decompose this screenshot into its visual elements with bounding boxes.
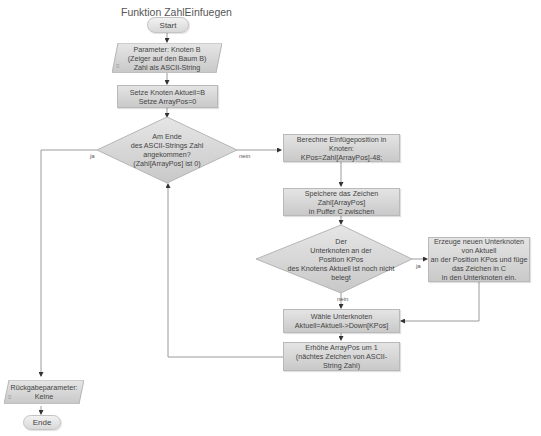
decision-end-of-string-text: Am Ende des ASCII-Strings Zahl angekomme… (107, 132, 227, 168)
select-child-text: Wähle Unterknoten Aktuell=Aktuell->Down[… (295, 312, 388, 330)
increment-text: Erhöhe ArrayPos um 1 (nächtes Zeichen vo… (296, 343, 388, 370)
input-parameters-text: Parameter: Knoten B (Zeiger auf den Baum… (128, 45, 207, 72)
io-marker-icon: ≡ (116, 62, 120, 71)
calc-position-text: Berechne Einfügeposition in Knoten: KPos… (297, 135, 387, 162)
edge-label-free-no: nein (337, 296, 348, 302)
create-child-text: Erzeuge neuen Unterknoten von Aktuell an… (430, 237, 527, 282)
select-child-node: Wähle Unterknoten Aktuell=Aktuell->Down[… (283, 309, 400, 333)
store-char-node: Speichere das Zeichen Zahl[ArrayPos] in … (283, 188, 400, 216)
edge-label-end-no: nein (239, 153, 250, 159)
init-process-node: Setze Knoten Aktuell=B Setze ArrayPos=0 (117, 85, 218, 108)
store-char-text: Speichere das Zeichen Zahl[ArrayPos] in … (305, 189, 379, 216)
init-process-text: Setze Knoten Aktuell=B Setze ArrayPos=0 (130, 88, 205, 106)
start-node: Start (147, 17, 189, 33)
io-marker-icon: ≡ (8, 393, 12, 402)
start-label: Start (160, 21, 177, 30)
return-parameters-node: Rückgabeparameter: Keine ≡ (4, 380, 84, 404)
end-node: Ende (23, 415, 61, 430)
increment-node: Erhöhe ArrayPos um 1 (nächtes Zeichen vo… (283, 342, 400, 371)
edge-label-end-yes: ja (90, 153, 95, 159)
connector-lines (0, 0, 541, 436)
decision-child-free-text: Der Unterknoten an der Position KPos des… (271, 237, 411, 282)
end-label: Ende (33, 418, 52, 427)
calc-position-node: Berechne Einfügeposition in Knoten: KPos… (283, 134, 400, 162)
input-parameters-node: Parameter: Knoten B (Zeiger auf den Baum… (112, 43, 222, 73)
create-child-node: Erzeuge neuen Unterknoten von Aktuell an… (428, 237, 530, 282)
edge-label-free-yes: ja (416, 263, 421, 269)
return-parameters-text: Rückgabeparameter: Keine (10, 383, 77, 401)
